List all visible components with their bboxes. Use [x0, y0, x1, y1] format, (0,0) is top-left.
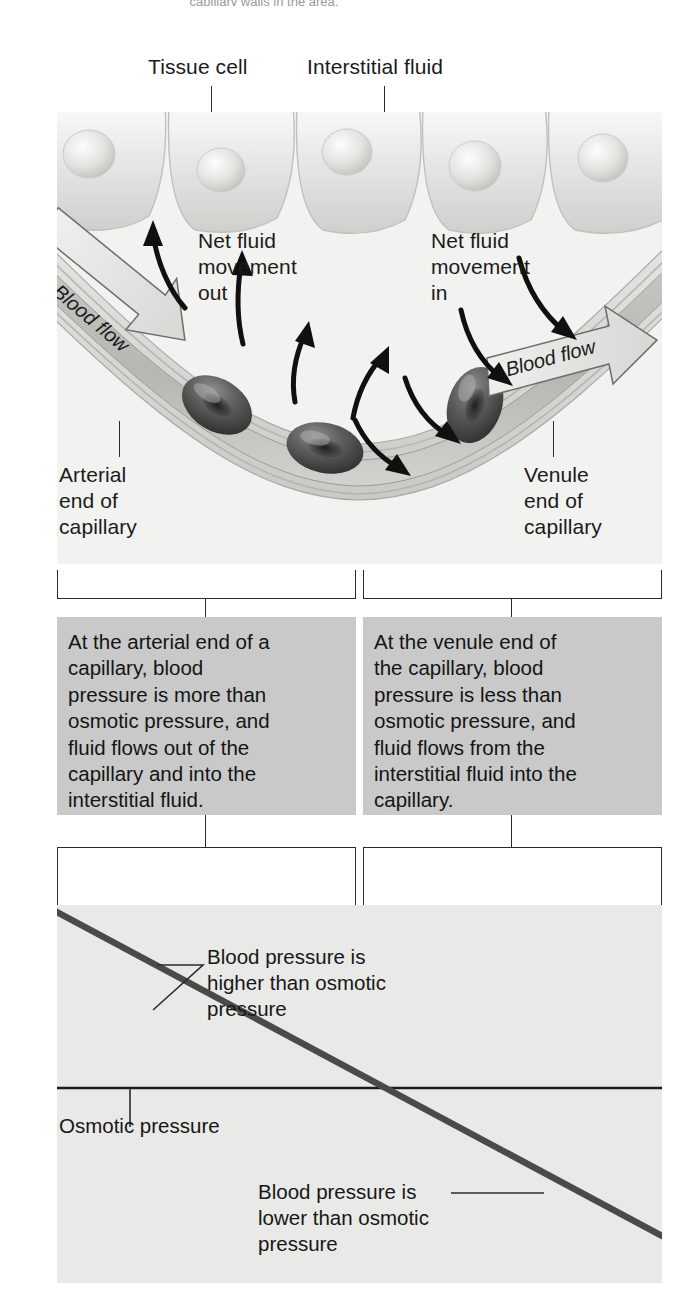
- bracket-graph-right: [363, 815, 662, 905]
- annotation-osmotic-pressure: Osmotic pressure: [59, 1113, 220, 1139]
- leader-arterial-end: [119, 421, 120, 457]
- label-net-fluid-movement-out: Net fluid movement out: [198, 228, 297, 306]
- annotation-bp-lower: Blood pressure is lower than osmotic pre…: [258, 1179, 429, 1257]
- bracket-venule: [363, 570, 662, 617]
- annotation-bp-higher: Blood pressure is higher than osmotic pr…: [207, 944, 386, 1022]
- tissue-cell: [297, 112, 422, 233]
- venule-statement-box: At the venule end of the capillary, bloo…: [363, 617, 662, 815]
- label-tissue-cell: Tissue cell: [148, 54, 248, 80]
- label-arterial-end: Arterial end of capillary: [59, 462, 137, 540]
- label-interstitial-fluid: Interstitial fluid: [307, 54, 443, 80]
- label-net-fluid-movement-in: Net fluid movement in: [431, 228, 530, 306]
- tissue-cell-row: [57, 112, 662, 233]
- tissue-cell: [423, 112, 548, 233]
- leader-venule-end: [553, 421, 554, 457]
- cut-caption-text: capillary walls in the area.: [104, 0, 424, 6]
- tissue-cell: [549, 112, 662, 233]
- arterial-statement-box: At the arterial end of a capillary, bloo…: [57, 617, 356, 815]
- bracket-arterial: [57, 570, 356, 617]
- label-venule-end: Venule end of capillary: [524, 462, 602, 540]
- bracket-graph-left: [57, 815, 356, 905]
- figure-page: capillary walls in the area. Tissue cell…: [0, 0, 693, 1305]
- pressure-graph-panel: Blood pressure is higher than osmotic pr…: [57, 905, 662, 1283]
- tissue-cell: [57, 112, 166, 230]
- tissue-cell: [169, 112, 295, 232]
